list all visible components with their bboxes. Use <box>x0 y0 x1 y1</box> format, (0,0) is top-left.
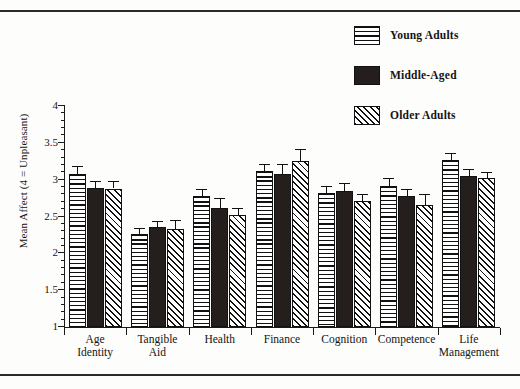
bar <box>318 193 335 327</box>
bar <box>256 171 273 327</box>
x-label-line-2: Aid <box>114 346 200 359</box>
bar <box>167 229 184 327</box>
bar <box>149 227 166 327</box>
bar <box>416 205 433 327</box>
error-bar-cap <box>419 194 430 195</box>
error-bar-cap <box>339 183 350 184</box>
bar <box>354 201 371 327</box>
error-bar <box>469 169 470 176</box>
error-bar-cap <box>170 220 181 221</box>
bar <box>336 191 353 327</box>
error-bar-cap <box>90 181 101 182</box>
y-tick-label: 1.5 <box>32 284 58 295</box>
error-bar <box>300 149 301 162</box>
error-bar <box>220 198 221 208</box>
y-tick-label: 2.5 <box>32 211 58 222</box>
bar <box>131 234 148 327</box>
error-bar-cap <box>277 164 288 165</box>
bar <box>442 160 459 327</box>
x-axis-labels: AgeIdentityTangibleAidHealthFinanceCogni… <box>64 333 500 381</box>
bar-chart: Mean Affect (4 = Unpleasant) 11.522.533.… <box>0 0 520 389</box>
y-tick-label: 1 <box>32 321 58 332</box>
error-bar-cap <box>259 164 270 165</box>
x-axis-category-label: LifeManagement <box>426 333 512 359</box>
bar <box>211 208 228 327</box>
error-bar-cap <box>357 194 368 195</box>
error-bar-cap <box>481 172 492 173</box>
bar <box>292 161 309 327</box>
bar <box>274 174 291 327</box>
bar <box>69 174 86 327</box>
error-bar-cap <box>152 221 163 222</box>
error-bar-cap <box>134 228 145 229</box>
error-bar-cap <box>232 208 243 209</box>
error-bar-cap <box>196 189 207 190</box>
bar <box>478 178 495 327</box>
error-bar-cap <box>108 181 119 182</box>
error-bar-cap <box>445 153 456 154</box>
error-bar <box>407 189 408 196</box>
error-bar-cap <box>295 149 306 150</box>
y-tick-label: 3 <box>32 174 58 185</box>
bar <box>380 186 397 327</box>
bars-layer <box>64 0 500 389</box>
error-bar-cap <box>401 189 412 190</box>
x-label-line-2: Management <box>426 346 512 359</box>
error-bar-cap <box>321 186 332 187</box>
error-bar-cap <box>383 178 394 179</box>
bar <box>229 215 246 327</box>
bar <box>87 188 104 327</box>
error-bar-cap <box>214 198 225 199</box>
error-bar-cap <box>72 166 83 167</box>
bar <box>460 176 477 327</box>
error-bar <box>425 194 426 205</box>
bar <box>398 196 415 327</box>
error-bar <box>113 181 114 188</box>
x-label-line-1: Life <box>426 333 512 346</box>
bar <box>105 189 122 327</box>
error-bar <box>389 178 390 186</box>
error-bar <box>282 164 283 174</box>
error-bar <box>175 220 176 229</box>
y-axis-tick-labels: 11.522.533.54 <box>30 0 58 389</box>
error-bar <box>362 194 363 201</box>
error-bar-cap <box>463 169 474 170</box>
bar <box>193 196 210 327</box>
y-tick-label: 3.5 <box>32 137 58 148</box>
error-bar <box>77 166 78 174</box>
y-tick-label: 2 <box>32 247 58 258</box>
y-axis-label: Mean Affect (4 = Unpleasant) <box>17 91 29 271</box>
y-tick-label: 4 <box>32 100 58 111</box>
error-bar <box>344 183 345 190</box>
